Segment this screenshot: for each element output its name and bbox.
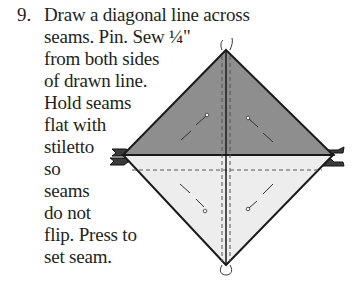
quilt-diagram <box>0 0 357 292</box>
thread-bottom-icon <box>220 265 231 275</box>
bottom-triangle <box>123 155 333 265</box>
thread-top-icon <box>221 38 232 50</box>
top-triangle <box>123 50 333 155</box>
